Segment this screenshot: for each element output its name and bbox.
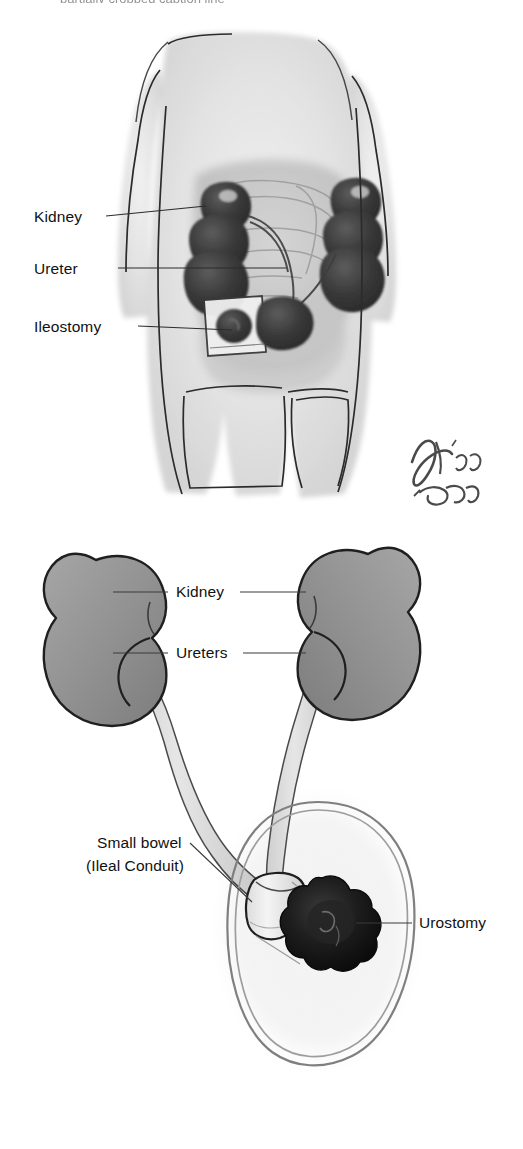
label-small-bowel-line1: Small bowel bbox=[97, 834, 182, 851]
figure-bottom-ileal-conduit-schematic: Kidney Ureters Small bowel (Ileal Condui… bbox=[0, 530, 523, 1149]
label-ileostomy-top: Ileostomy bbox=[34, 318, 101, 335]
label-urostomy: Urostomy bbox=[419, 914, 486, 931]
artist-signature bbox=[412, 440, 480, 505]
label-kidney-bottom: Kidney bbox=[176, 583, 224, 600]
kidney-right-schematic bbox=[298, 548, 421, 720]
label-ureters-bottom: Ureters bbox=[176, 644, 228, 661]
illustration-page: partially cropped caption line bbox=[0, 0, 523, 1149]
label-ureter-top: Ureter bbox=[34, 260, 78, 277]
ileostomy-stoma bbox=[216, 309, 252, 343]
bowel-conduit-watercolor bbox=[256, 296, 314, 350]
label-small-bowel-line2: (Ileal Conduit) bbox=[86, 857, 184, 874]
kidney-left-schematic bbox=[44, 554, 167, 726]
label-kidney-top: Kidney bbox=[34, 208, 82, 225]
figure-top-watercolor-torso: Kidney Ureter Ileostomy bbox=[0, 0, 523, 530]
